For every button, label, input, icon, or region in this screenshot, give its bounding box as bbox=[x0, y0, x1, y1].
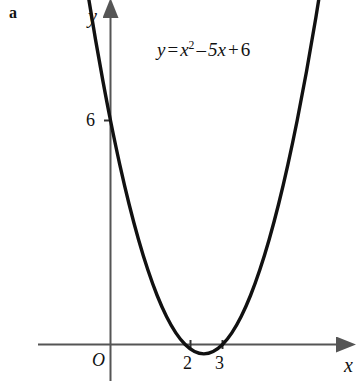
equation-term2: 5x bbox=[208, 39, 226, 60]
y-tick-label-6: 6 bbox=[86, 111, 95, 129]
figure-panel: a y x 6 O 2 3 y=x2–5x+6 bbox=[0, 0, 364, 381]
equation-term1-base: x bbox=[180, 39, 188, 60]
x-tick-label-3: 3 bbox=[215, 354, 224, 372]
equation-equals: = bbox=[165, 39, 180, 60]
x-tick-label-2: 2 bbox=[183, 354, 192, 372]
equation-minus: – bbox=[194, 39, 208, 60]
y-axis-label: y bbox=[88, 6, 97, 26]
origin-label: O bbox=[92, 351, 105, 369]
equation-term3: 6 bbox=[241, 39, 251, 60]
x-axis-label: x bbox=[344, 355, 353, 375]
equation-plus: + bbox=[226, 39, 241, 60]
equation-annotation: y=x2–5x+6 bbox=[157, 40, 250, 61]
panel-letter: a bbox=[9, 5, 17, 21]
